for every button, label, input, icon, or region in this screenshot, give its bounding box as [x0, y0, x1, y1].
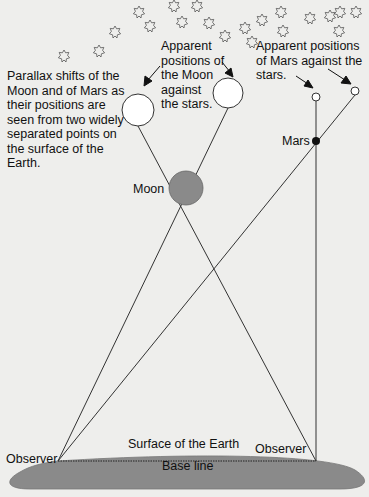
star-icon	[304, 12, 315, 24]
moon-label: Moon	[133, 182, 164, 197]
star-icon	[350, 6, 361, 18]
mars-apparent-left	[312, 93, 320, 101]
observer-right-label: Observer	[255, 442, 306, 457]
observer-left-label: Observer	[6, 452, 57, 467]
star-icon	[176, 16, 187, 28]
star-icon	[58, 50, 69, 62]
star-icon	[324, 10, 335, 22]
mars-apparent-right	[351, 87, 359, 95]
mars-label: Mars	[282, 134, 310, 149]
star-icon	[203, 17, 214, 29]
moon-icon	[169, 171, 203, 205]
star-icon	[334, 6, 345, 18]
earth-surface-label: Surface of the Earth	[128, 437, 239, 452]
star-icon	[256, 14, 267, 26]
mars-icon	[312, 137, 320, 145]
baseline-label: Base line	[162, 459, 213, 474]
star-icon	[144, 20, 155, 32]
star-icon	[275, 6, 286, 18]
star-icon	[277, 25, 288, 37]
star-icon	[333, 25, 344, 37]
star-icon	[93, 45, 104, 57]
mars-apparent-caption: Apparent positions of Mars against the s…	[256, 39, 366, 83]
star-icon	[191, 0, 202, 12]
star-icon	[239, 22, 250, 34]
arrow-moon-left	[148, 66, 160, 80]
star-icon	[168, 0, 179, 12]
star-icon	[133, 6, 144, 18]
moon-apparent-caption: Apparent positions of the Moon against t…	[161, 39, 241, 112]
parallax-caption: Parallax shifts of the Moon and of Mars …	[7, 69, 132, 171]
star-icon	[109, 26, 120, 38]
